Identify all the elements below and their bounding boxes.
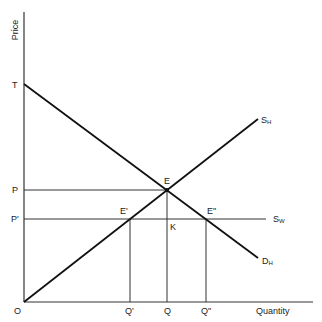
- price-label-p: P: [12, 185, 18, 195]
- price-label-t: T: [12, 80, 18, 90]
- home-supply-label: SH: [261, 115, 271, 125]
- price-label-p-prime: P': [11, 214, 19, 224]
- point-label-k: K: [170, 222, 176, 232]
- home-supply-curve: [24, 119, 258, 302]
- origin-label: O: [14, 306, 21, 316]
- economics-diagram: Price Quantity O T P P' Q' Q Q" E E' E" …: [0, 0, 322, 322]
- home-demand-curve: [24, 84, 258, 258]
- quantity-axis-label: Quantity: [256, 306, 290, 316]
- equilibrium-point-e: [165, 188, 169, 192]
- point-label-e-double-prime: E": [207, 206, 216, 216]
- quantity-label-q-prime: Q': [125, 306, 134, 316]
- point-label-e-prime: E': [120, 206, 128, 216]
- quantity-label-q: Q: [164, 306, 171, 316]
- point-label-e: E: [164, 176, 170, 186]
- quantity-label-q-double-prime: Q": [201, 306, 211, 316]
- world-supply-label: SW: [273, 214, 285, 224]
- price-axis-label: Price: [10, 20, 20, 41]
- home-demand-label: DH: [262, 256, 273, 266]
